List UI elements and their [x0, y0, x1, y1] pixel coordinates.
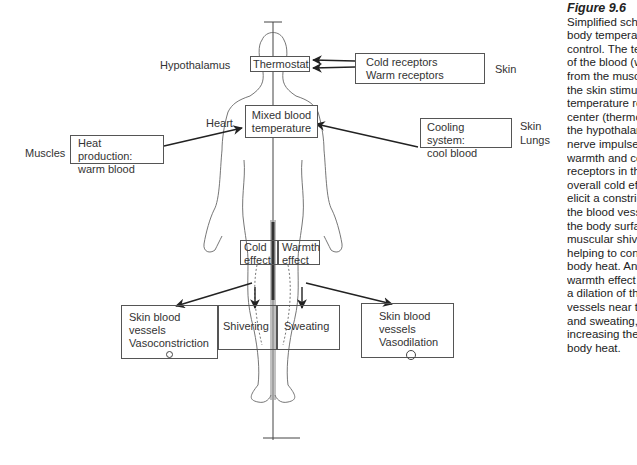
large-vessel-icon [406, 350, 416, 360]
vasoconstriction-box: Skin blood vessels Vasoconstriction [121, 305, 218, 359]
caption-line: body temperature [567, 29, 637, 43]
shivering-box: Shivering [218, 305, 277, 350]
caption-line: temperature regulatory [567, 97, 637, 111]
mixed-blood-text-2: temperature [250, 122, 313, 135]
caption-line: body heat. [567, 342, 637, 356]
caption-line: from the muscles, cooling by [567, 70, 637, 84]
sweating-text: Sweating [284, 320, 333, 333]
cold-receptors-text: Cold receptors [366, 56, 474, 69]
caption-line: the blood vessels near [567, 206, 637, 220]
caption-line: Simplified scheme of [567, 16, 637, 30]
caption-line: body heat. An overall [567, 260, 637, 274]
heat-production-box: Heat production: warm blood [70, 135, 164, 164]
mixed-blood-text-1: Mixed blood [250, 109, 313, 122]
warmth-effect-box: Warmth effect [278, 240, 320, 265]
cold-effect-box: Cold effect [240, 240, 278, 265]
thermostat-text: Thermostat [253, 58, 307, 71]
caption-line: overall cold effect will [567, 179, 637, 193]
caption-line: nerve impulses from [567, 138, 637, 152]
warm-receptors-text: Warm receptors [366, 69, 474, 82]
muscles-label: Muscles [25, 147, 65, 160]
arrows [164, 60, 418, 308]
caption-line: helping to conserve [567, 247, 637, 261]
caption-line: the body surface and [567, 220, 637, 234]
caption-line: vessels near the surface [567, 301, 637, 315]
caption-line: the skin stimulates the [567, 84, 637, 98]
caption-line: of the blood (warm blood [567, 56, 637, 70]
skin-label-right: Skin [520, 120, 541, 133]
caption-line: warmth and cold [567, 152, 637, 166]
figure-caption: Figure 9.6 Simplified scheme of body tem… [567, 2, 637, 355]
receptors-box: Cold receptors Warm receptors [355, 53, 485, 84]
cooling-system-box: Cooling system: cool blood [420, 118, 512, 148]
caption-line: control. The temperature [567, 43, 637, 57]
cooling-system-text-1: Cooling system: [427, 121, 505, 147]
skin-label-top: Skin [495, 63, 516, 76]
heat-production-text-1: Heat production: [78, 137, 156, 163]
caption-line: increasing the loss of [567, 328, 637, 342]
small-vessel-icon [166, 351, 173, 358]
caption-line: a dilation of the blood [567, 287, 637, 301]
heat-production-text-2: warm blood [78, 163, 156, 176]
caption-line: warmth effect will elicit [567, 274, 637, 288]
caption-line: and sweating, thus [567, 315, 637, 329]
vasodilation-text-3: Vasodilation [379, 336, 436, 349]
vasodilation-text-1: Skin blood [379, 310, 436, 323]
thermostat-box: Thermostat [250, 56, 310, 72]
vasodilation-box: Skin blood vessels Vasodilation [361, 303, 454, 358]
shivering-text: Shivering [223, 320, 272, 333]
warmth-effect-text-1: Warmth [282, 241, 316, 254]
heart-label: Heart [206, 117, 233, 130]
caption-line: the hypothalamus, as do [567, 124, 637, 138]
caption-line: elicit a constriction of [567, 192, 637, 206]
vasoconstriction-text-2: vessels [129, 324, 210, 337]
sweating-box: Sweating [277, 305, 340, 350]
figure-title: Figure 9.6 [567, 2, 637, 16]
lungs-label: Lungs [520, 134, 550, 147]
warmth-effect-text-2: effect [282, 254, 316, 267]
vasoconstriction-text-1: Skin blood [129, 311, 210, 324]
cold-effect-text-1: Cold [244, 241, 274, 254]
caption-line: muscular shivering, [567, 233, 637, 247]
hypothalamus-label: Hypothalamus [160, 59, 230, 72]
mixed-blood-box: Mixed blood temperature [245, 105, 318, 138]
cooling-system-text-2: cool blood [427, 147, 505, 160]
central-axis [263, 22, 300, 440]
caption-line: center (thermostat) in [567, 111, 637, 125]
vasodilation-text-2: vessels [379, 323, 436, 336]
cold-effect-text-2: effect [244, 254, 274, 267]
caption-line: receptors in the skin. An [567, 165, 637, 179]
vasoconstriction-text-3: Vasoconstriction [129, 337, 210, 350]
